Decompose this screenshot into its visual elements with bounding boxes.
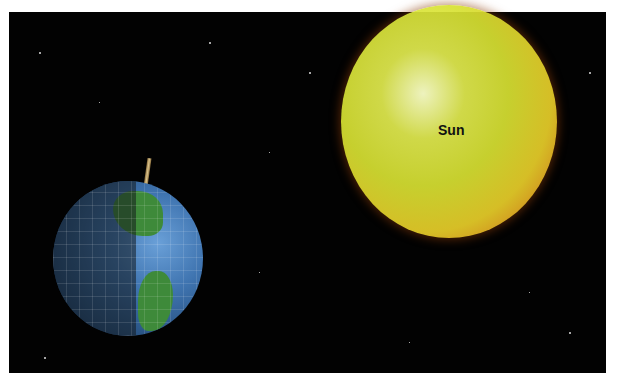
star [99, 102, 100, 103]
star [569, 332, 571, 334]
star [529, 292, 530, 293]
star [269, 152, 270, 153]
star [259, 272, 260, 273]
star [409, 342, 410, 343]
star [39, 52, 41, 54]
star [209, 42, 211, 44]
earth [53, 181, 203, 336]
earth-gridlines [53, 181, 203, 336]
star [44, 357, 46, 359]
star [589, 72, 591, 74]
star [309, 72, 311, 74]
sun-label: Sun [438, 122, 464, 138]
